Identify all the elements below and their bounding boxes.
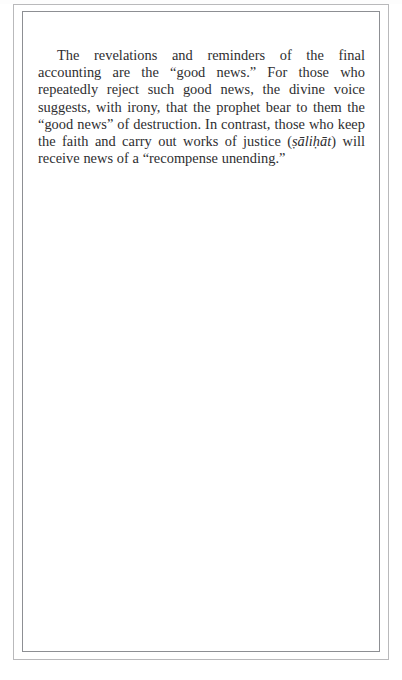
body-paragraph: The revelations and reminders of the fin…: [38, 47, 365, 167]
page-text-block: The revelations and reminders of the fin…: [38, 47, 365, 167]
transliterated-term-salihat: ṣāliḥāt: [292, 133, 331, 149]
book-page: The revelations and reminders of the fin…: [0, 0, 402, 680]
